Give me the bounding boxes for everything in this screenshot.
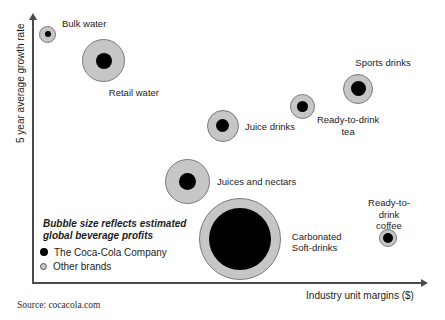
legend-title-line1: Bubble size reflects estimated bbox=[43, 218, 186, 230]
y-axis-arrowhead-icon bbox=[29, 13, 37, 20]
bubble-core-ready-to-drink-tea bbox=[297, 101, 308, 112]
x-axis-arrowhead-icon bbox=[421, 279, 428, 287]
bubble-core-retail-water bbox=[96, 53, 112, 69]
legend-swatch-cocacola-icon bbox=[40, 248, 48, 256]
legend-item-other-brands: Other brands bbox=[40, 259, 186, 273]
bubble-chart: 5 year average growth rate Industry unit… bbox=[0, 0, 445, 320]
y-axis-label: 5 year average growth rate bbox=[15, 27, 27, 143]
bubble-core-carbonated-soft-drinks bbox=[209, 208, 271, 270]
bubble-label-juices-and-nectars: Juices and nectars bbox=[217, 176, 296, 188]
legend-swatch-other-brands-icon bbox=[40, 263, 47, 270]
legend-item-label: The Coca-Cola Company bbox=[54, 247, 167, 258]
legend: Bubble size reflects estimated global be… bbox=[40, 218, 186, 273]
legend-item-cocacola: The Coca-Cola Company bbox=[40, 245, 186, 259]
bubble-core-sports-drinks bbox=[351, 81, 366, 96]
bubble-label-juice-drinks: Juice drinks bbox=[245, 121, 295, 133]
source-note: Source: cocacola.com bbox=[17, 300, 100, 310]
y-axis-line bbox=[32, 20, 34, 283]
bubble-label-bulk-water: Bulk water bbox=[62, 18, 106, 30]
bubble-label-sports-drinks: Sports drinks bbox=[355, 57, 410, 69]
legend-title-line2: global beverage profits bbox=[43, 230, 186, 242]
x-axis-line bbox=[32, 282, 423, 284]
bubble-label-retail-water: Retail water bbox=[109, 87, 159, 99]
x-axis-label: Industry unit margins ($) bbox=[306, 290, 414, 301]
bubble-core-bulk-water bbox=[45, 31, 51, 37]
bubble-label-ready-to-drink-coffee: Ready-to-drink coffee bbox=[361, 197, 417, 232]
bubble-label-carbonated-soft-drinks: Carbonated Soft-drinks bbox=[292, 230, 342, 253]
bubble-core-juices-and-nectars bbox=[179, 173, 196, 190]
legend-item-label: Other brands bbox=[53, 261, 111, 272]
bubble-label-ready-to-drink-tea: Ready-to-drink tea bbox=[317, 114, 379, 137]
